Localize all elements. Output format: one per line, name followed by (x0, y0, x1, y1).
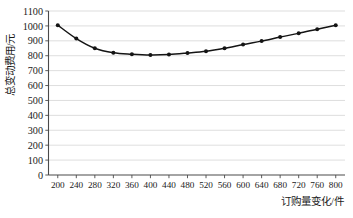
data-point (204, 49, 208, 53)
data-series-line (58, 25, 336, 55)
y-tick-label: 600 (28, 80, 43, 91)
y-tick-label: 100 (28, 155, 43, 166)
x-tick-label: 280 (88, 180, 102, 190)
data-point (297, 31, 301, 35)
chart-container: 2002402803203604004404805205606006406807… (0, 0, 353, 218)
y-axis-title: 总变动费用/元 (4, 33, 16, 97)
y-tick-label: 900 (28, 35, 43, 46)
x-tick-label: 240 (69, 180, 83, 190)
y-axis-tick-labels: 010020030040050060070080090010001100 (23, 6, 43, 181)
x-tick-label: 520 (199, 180, 213, 190)
data-point (56, 23, 60, 27)
data-point (315, 27, 319, 31)
x-tick-label: 440 (162, 180, 176, 190)
data-point (148, 53, 152, 57)
data-point (93, 46, 97, 50)
y-tick-label: 1000 (23, 21, 43, 32)
x-tick-label: 760 (310, 180, 324, 190)
y-tick-label: 300 (28, 125, 43, 136)
data-point (334, 23, 338, 27)
data-point (111, 51, 115, 55)
y-tick-label: 0 (38, 170, 43, 181)
y-tick-label: 500 (28, 95, 43, 106)
x-tick-label: 720 (292, 180, 306, 190)
data-point (278, 35, 282, 39)
data-point (223, 46, 227, 50)
x-tick-label: 640 (255, 180, 269, 190)
x-tick-label: 800 (329, 180, 343, 190)
x-axis-title: 订购量变化/件 (281, 195, 344, 207)
x-tick-label: 320 (106, 180, 120, 190)
x-tick-label: 560 (218, 180, 232, 190)
data-point (167, 53, 171, 57)
line-chart: 2002402803203604004404805205606006406807… (0, 0, 353, 218)
data-point (130, 52, 134, 56)
y-tick-label: 700 (28, 65, 43, 76)
x-tick-label: 600 (236, 180, 250, 190)
y-tick-label: 200 (28, 140, 43, 151)
x-tick-label: 680 (273, 180, 287, 190)
x-tick-label: 200 (51, 180, 65, 190)
y-axis-label: 总变动费用/元 (4, 33, 16, 97)
x-tick-label: 480 (181, 180, 195, 190)
data-point (241, 43, 245, 47)
x-tick-label: 400 (144, 180, 158, 190)
series-line (58, 25, 336, 55)
y-tick-label: 400 (28, 110, 43, 121)
y-tick-label: 1100 (23, 6, 43, 17)
data-point (185, 51, 189, 55)
data-point (260, 39, 264, 43)
data-point (74, 37, 78, 41)
x-axis-label: 订购量变化/件 (281, 195, 344, 207)
x-tick-label: 360 (125, 180, 139, 190)
y-tick-label: 800 (28, 50, 43, 61)
x-axis-tick-labels: 2002402803203604004404805205606006406807… (51, 180, 343, 190)
